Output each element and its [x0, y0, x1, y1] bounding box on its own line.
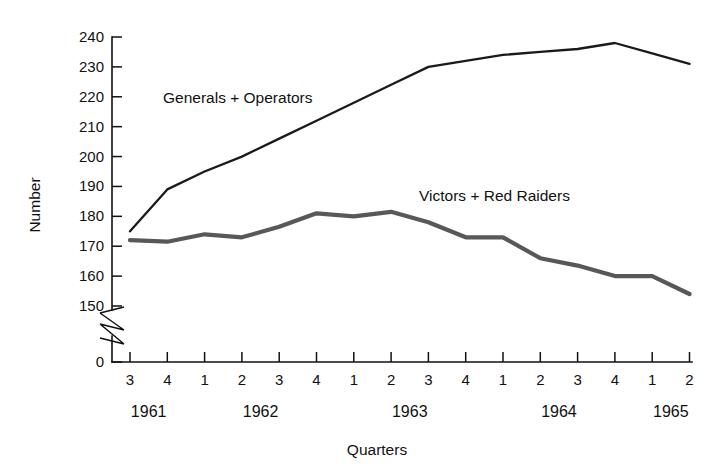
y-tick-label: 240 [79, 28, 104, 45]
x-tick-label: 3 [573, 371, 581, 388]
x-axis-year-labels: 19611962196319641965 [131, 403, 689, 420]
y-tick-label: 180 [79, 207, 104, 224]
y-tick-label: 210 [79, 118, 104, 135]
x-tick-label: 4 [462, 371, 470, 388]
series-line-victors-red-raiders [130, 212, 690, 294]
x-axis-year-label: 1964 [541, 403, 577, 420]
x-tick-label: 4 [611, 371, 619, 388]
y-tick-label: 170 [79, 237, 104, 254]
x-tick-label: 2 [387, 371, 395, 388]
x-tick-label: 1 [648, 371, 656, 388]
x-axis-ticks: 3412341234123412 [126, 352, 694, 388]
x-tick-label: 4 [163, 371, 171, 388]
x-axis-year-label: 1963 [392, 403, 428, 420]
x-tick-label: 3 [126, 371, 134, 388]
x-tick-label: 2 [536, 371, 544, 388]
y-tick-label: 230 [79, 58, 104, 75]
y-axis-title: Number [26, 177, 43, 232]
chart-container: 240230220210200190180170160150 0 3412341… [0, 0, 722, 471]
x-tick-label: 1 [499, 371, 507, 388]
x-axis-year-label: 1962 [243, 403, 279, 420]
y-tick-label: 220 [79, 88, 104, 105]
y-tick-label: 160 [79, 267, 104, 284]
y-zero-tick: 0 [96, 353, 122, 370]
x-tick-label: 2 [685, 371, 693, 388]
series-group [130, 43, 690, 294]
x-axis-year-label: 1961 [131, 403, 167, 420]
x-axis-year-label: 1965 [653, 403, 689, 420]
generals-operators-label: Generals + Operators [163, 89, 313, 106]
y-tick-label-zero: 0 [96, 353, 104, 370]
x-tick-label: 2 [238, 371, 246, 388]
chart-svg: 240230220210200190180170160150 0 3412341… [0, 0, 722, 471]
x-tick-label: 1 [350, 371, 358, 388]
series-line-generals-operators [130, 43, 690, 231]
x-axis-title: Quarters [347, 441, 408, 458]
y-tick-label: 200 [79, 148, 104, 165]
x-tick-label: 3 [424, 371, 432, 388]
x-tick-label: 3 [275, 371, 283, 388]
y-tick-label: 150 [79, 297, 104, 314]
x-tick-label: 4 [312, 371, 320, 388]
victors-red-raiders-label: Victors + Red Raiders [419, 187, 570, 204]
y-axis-ticks: 240230220210200190180170160150 [79, 28, 122, 314]
x-tick-label: 1 [200, 371, 208, 388]
y-tick-label: 190 [79, 177, 104, 194]
